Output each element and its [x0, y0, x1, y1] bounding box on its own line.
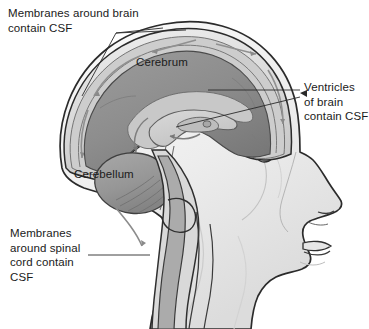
label-cerebellum: Cerebellum: [74, 167, 134, 182]
csf-anatomy-figure: Membranes around brain contain CSF Cereb…: [0, 0, 369, 329]
interthalamic-adhesion: [203, 121, 211, 127]
upper-lip: [303, 241, 331, 250]
label-membranes-around-brain: Membranes around brain contain CSF: [8, 6, 139, 35]
label-membranes-around-spinal-cord: Membranes around spinal cord contain CSF: [10, 226, 80, 284]
label-cerebrum: Cerebrum: [136, 55, 188, 70]
label-ventricles-of-brain: Ventricles of brain contain CSF: [304, 80, 368, 124]
nose-base-shading: [308, 222, 328, 225]
